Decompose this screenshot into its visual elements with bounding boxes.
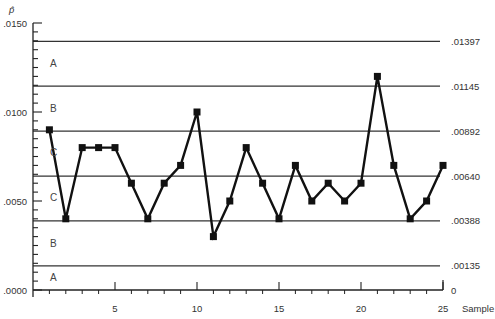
series-line: [49, 76, 443, 236]
data-point-marker: [440, 162, 447, 169]
reference-line-label: .00892: [451, 126, 480, 137]
reference-line-label: 0: [451, 285, 456, 296]
data-point-marker: [390, 162, 397, 169]
reference-line-label: .00135: [451, 260, 480, 271]
y-tick-label: .0000: [3, 285, 27, 296]
reference-line-label: .00388: [451, 215, 480, 226]
data-point-marker: [308, 198, 315, 205]
data-series: [46, 73, 447, 240]
data-point-marker: [79, 144, 86, 151]
data-point-marker: [62, 215, 69, 222]
zone-label: B: [50, 103, 57, 114]
data-point-marker: [374, 73, 381, 80]
data-point-marker: [95, 144, 102, 151]
x-tick-label: 5: [112, 303, 117, 314]
x-axis-label: Sample: [462, 303, 494, 314]
reference-line-label: .01397: [451, 36, 480, 47]
data-point-marker: [194, 109, 201, 116]
data-point-marker: [243, 144, 250, 151]
y-tick-label: .0050: [3, 196, 27, 207]
x-tick-label: 15: [274, 303, 285, 314]
y-tick-label: .0150: [3, 18, 27, 29]
x-tick-label: 25: [438, 303, 449, 314]
data-point-marker: [226, 198, 233, 205]
data-point-marker: [128, 180, 135, 187]
y-tick-label: .0100: [3, 107, 27, 118]
zone-label: B: [50, 238, 57, 249]
data-point-marker: [292, 162, 299, 169]
data-point-marker: [358, 180, 365, 187]
data-point-marker: [177, 162, 184, 169]
data-point-marker: [341, 198, 348, 205]
data-point-marker: [46, 126, 53, 133]
zone-label: C: [50, 147, 57, 158]
labels: .01397.01145.00892.00640.00388.001350.01…: [3, 4, 494, 314]
data-point-marker: [161, 180, 168, 187]
reference-line-label: .00640: [451, 171, 480, 182]
data-point-marker: [325, 180, 332, 187]
data-point-marker: [144, 215, 151, 222]
data-point-marker: [276, 215, 283, 222]
data-point-marker: [210, 233, 217, 240]
x-tick-label: 10: [192, 303, 203, 314]
reference-line-label: .01145: [451, 81, 479, 92]
axes: [33, 23, 443, 297]
zone-label: C: [50, 192, 57, 203]
data-point-marker: [423, 198, 430, 205]
data-point-marker: [112, 144, 119, 151]
y-axis-label: p̂: [8, 4, 15, 15]
zone-label: A: [50, 58, 57, 69]
data-point-marker: [407, 215, 414, 222]
x-tick-label: 20: [356, 303, 367, 314]
zone-label: A: [50, 272, 57, 283]
data-point-marker: [259, 180, 266, 187]
control-chart: .01397.01145.00892.00640.00388.001350.01…: [0, 0, 495, 319]
